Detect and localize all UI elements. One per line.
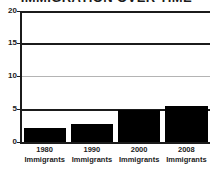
y-tick-label-0: 0 xyxy=(0,138,17,146)
x-tick-sublabel-2008: Immigrants xyxy=(163,155,210,165)
x-axis-line xyxy=(20,142,210,144)
x-tick-label-1990: 1990 Immigrants xyxy=(68,145,115,165)
bar-1980 xyxy=(24,128,66,142)
y-tick-label-15: 15 xyxy=(0,39,17,47)
bar-2000 xyxy=(118,110,160,142)
x-tick-year-1990: 1990 xyxy=(68,145,115,155)
y-tick-label-20: 20 xyxy=(0,7,17,15)
chart-title: IMMIGRATION OVER TIME xyxy=(0,0,213,5)
x-axis-labels: 1980 Immigrants 1990 Immigrants 2000 Imm… xyxy=(21,145,210,169)
x-tick-year-2000: 2000 xyxy=(116,145,163,155)
x-tick-sublabel-1980: Immigrants xyxy=(21,155,68,165)
bar-2008 xyxy=(165,106,207,142)
immigration-over-time-bar-chart: IMMIGRATION OVER TIME 20 15 10 5 0 1980 … xyxy=(0,0,213,171)
x-tick-sublabel-2000: Immigrants xyxy=(116,155,163,165)
x-tick-sublabel-1990: Immigrants xyxy=(68,155,115,165)
y-tick-label-10: 10 xyxy=(0,72,17,80)
y-tick-mark-0 xyxy=(17,142,21,143)
x-tick-year-2008: 2008 xyxy=(163,145,210,155)
x-tick-label-1980: 1980 Immigrants xyxy=(21,145,68,165)
x-tick-year-1980: 1980 xyxy=(21,145,68,155)
x-tick-label-2000: 2000 Immigrants xyxy=(116,145,163,165)
bar-1990 xyxy=(71,124,113,142)
x-tick-label-2008: 2008 Immigrants xyxy=(163,145,210,165)
y-tick-label-5: 5 xyxy=(0,105,17,113)
bars-group xyxy=(21,11,210,142)
